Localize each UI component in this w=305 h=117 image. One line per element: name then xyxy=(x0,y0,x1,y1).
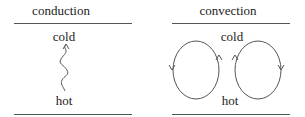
left-loop-arrow-down-icon xyxy=(169,65,175,70)
diagram-graphics xyxy=(0,0,305,117)
convection-loop-right xyxy=(235,41,281,99)
convection-loop-left xyxy=(173,41,219,99)
wavy-heat-arrow-icon xyxy=(60,45,68,91)
arrowhead-icon xyxy=(63,44,69,49)
